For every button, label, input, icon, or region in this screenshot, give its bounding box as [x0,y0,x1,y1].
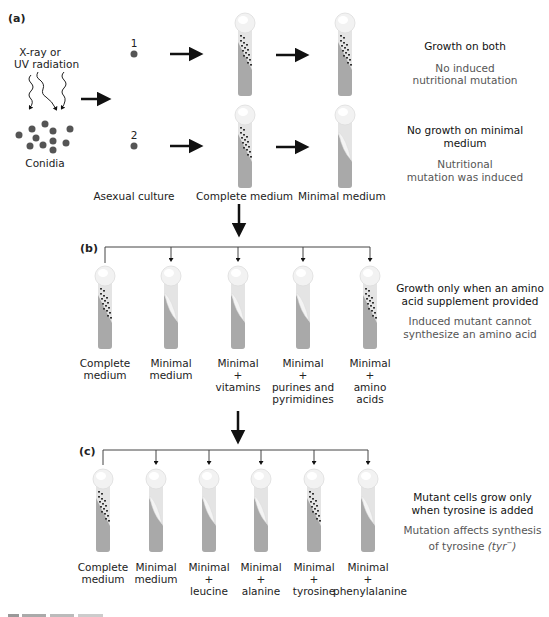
tube-c-tyrosine-growth [301,468,327,554]
result-c-headline: Mutant cells grow only when tyrosine is … [400,491,545,516]
label-line: leucine [183,585,235,597]
result-a2-head-line2: medium [400,137,530,150]
label-line: amino [340,381,400,393]
result-b-expl-line2: synthesize an amino acid [395,328,545,341]
tube-b-complete-growth [92,265,118,351]
complete-medium-label: Complete medium [196,190,282,202]
tube-c-alanine-no-growth [248,468,274,554]
tube-b-label-purines: Minimal + purines and pyrimidines [268,357,338,405]
culture-number-1: 1 [129,37,139,49]
result-a1-expl-line2: nutritional mutation [400,74,530,87]
radiation-label: X-ray or UV radiation [14,46,66,70]
tube-1-complete-growth [232,12,258,98]
label-line: Minimal [130,561,182,573]
panel-a-label: (a) [8,12,25,25]
panel-b-label: (b) [80,242,98,255]
conidia-dots [16,121,74,154]
result-a2-head-line1: No growth on minimal [400,124,530,137]
tube-c-complete-growth [90,468,116,554]
asexual-culture-label: Asexual culture [92,190,176,202]
result-c-expl-line2: of tyrosine (tyr−) [400,537,545,552]
tube-c-leucine-no-growth [196,468,222,554]
tube-2-complete-growth [232,104,258,190]
tube-1-minimal-growth [332,12,358,98]
label-line: alanine [235,585,287,597]
culture-dot-1 [131,51,138,58]
tube-c-label-phenylalanine: Minimal + phenylalanine [333,561,403,597]
tube-b-amino-acids-growth [357,265,383,351]
tube-c-label-minimal: Minimal medium [130,561,182,585]
result-c-expl-line1: Mutation affects synthesis [400,524,545,537]
radiation-squiggles [29,72,66,109]
culture-dot-2 [131,143,138,150]
result-b-head-line1: Growth only when an amino [395,282,545,295]
result-a2-expl-line2: mutation was induced [400,171,530,184]
label-line: Minimal [141,357,201,369]
bracket-c [103,450,368,465]
label-line: + [235,573,287,585]
tube-b-label-amino: Minimal + amino acids [340,357,400,405]
result-b-expl-line1: Induced mutant cannot [395,315,545,328]
result-c-head-line2: when tyrosine is added [400,504,545,517]
tube-c-label-leucine: Minimal + leucine [183,561,235,597]
result-c: Mutant cells grow only when tyrosine is … [400,491,545,552]
tube-2-minimal-no-growth [332,104,358,190]
tube-b-purines-no-growth [290,265,316,351]
result-b-headline: Growth only when an amino acid supplemen… [395,282,545,307]
label-line: Complete [75,561,131,573]
tube-c-label-alanine: Minimal + alanine [235,561,287,597]
label-line: phenylalanine [333,585,403,597]
tube-c-phenylalanine-no-growth [355,468,381,554]
result-a2-explanation: Nutritional mutation was induced [400,158,530,183]
label-line: acids [340,393,400,405]
label-line: medium [75,369,135,381]
result-b-head-line2: acid supplement provided [395,295,545,308]
label-line: pyrimidines [268,393,338,405]
result-a1-expl-line1: No induced [400,62,530,75]
culture-number-2: 2 [129,129,139,141]
label-line: + [208,369,268,381]
label-line: + [183,573,235,585]
label-line: + [333,573,403,585]
tube-b-label-vitamins: Minimal + vitamins [208,357,268,393]
label-line: medium [130,573,182,585]
tube-c-minimal-no-growth [143,468,169,554]
label-line: Complete [75,357,135,369]
result-b-explanation: Induced mutant cannot synthesize an amin… [395,315,545,340]
label-line: Minimal [183,561,235,573]
tube-b-minimal-no-growth [158,265,184,351]
result-c-head-line1: Mutant cells grow only [400,491,545,504]
tube-b-label-complete: Complete medium [75,357,135,381]
result-a2-expl-line1: Nutritional [400,158,530,171]
radiation-label-line1: X-ray or [14,46,66,58]
label-line: Minimal [333,561,403,573]
result-a2-headline: No growth on minimal medium [400,124,530,149]
result-a1-explanation: No induced nutritional mutation [400,62,530,87]
label-line: Minimal [208,357,268,369]
gene-close: ) [512,539,516,551]
result-a1: Growth on both No induced nutritional mu… [400,40,530,87]
expl-prefix: of tyrosine [429,539,488,551]
result-a2: No growth on minimal medium Nutritional … [400,124,530,183]
radiation-label-line2: UV radiation [14,58,66,70]
label-line: + [340,369,400,381]
panel-c-label: (c) [79,445,96,458]
label-line: purines and [268,381,338,393]
label-line: vitamins [208,381,268,393]
tube-b-label-minimal: Minimal medium [141,357,201,381]
tube-b-vitamins-no-growth [225,265,251,351]
tube-c-label-complete: Complete medium [75,561,131,585]
result-c-explanation: Mutation affects synthesis of tyrosine (… [400,524,545,552]
bracket-b [105,247,370,263]
gene-symbol: (tyr [488,539,507,551]
minimal-medium-label: Minimal medium [298,190,384,202]
result-a1-headline: Growth on both [400,40,530,53]
label-line: Minimal [340,357,400,369]
label-line: medium [75,573,131,585]
conidia-label: Conidia [20,157,70,169]
label-line: + [268,369,338,381]
label-line: Minimal [268,357,338,369]
result-b: Growth only when an amino acid supplemen… [395,282,545,340]
label-line: medium [141,369,201,381]
label-line: Minimal [235,561,287,573]
